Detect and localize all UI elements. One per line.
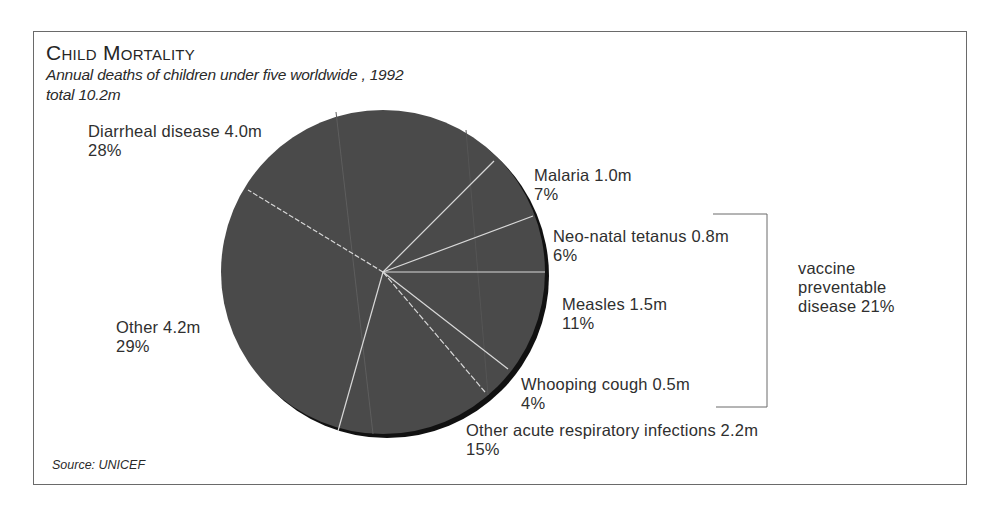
label-malaria-pct: 7%: [534, 185, 632, 204]
label-other: Other 4.2m 29%: [116, 318, 201, 356]
label-malaria-name: Malaria 1.0m: [534, 166, 632, 185]
label-ari-pct: 15%: [466, 440, 758, 459]
label-other-name: Other 4.2m: [116, 318, 201, 337]
label-diarrheal-pct: 28%: [88, 141, 262, 160]
label-neonatal: Neo-natal tetanus 0.8m 6%: [553, 227, 729, 265]
label-measles-name: Measles 1.5m: [562, 295, 667, 314]
label-whooping-pct: 4%: [521, 394, 690, 413]
label-measles: Measles 1.5m 11%: [562, 295, 667, 333]
label-diarrheal: Diarrheal disease 4.0m 28%: [88, 122, 262, 160]
label-whooping-name: Whooping cough 0.5m: [521, 375, 690, 394]
label-ari: Other acute respiratory infections 2.2m …: [466, 421, 758, 459]
label-neonatal-name: Neo-natal tetanus 0.8m: [553, 227, 729, 246]
label-other-pct: 29%: [116, 337, 201, 356]
vaccine-group-line2: preventable: [798, 278, 895, 297]
label-whooping: Whooping cough 0.5m 4%: [521, 375, 690, 413]
label-measles-pct: 11%: [562, 314, 667, 333]
label-malaria: Malaria 1.0m 7%: [534, 166, 632, 204]
label-vaccine-group: vaccine preventable disease 21%: [798, 259, 895, 316]
vaccine-group-line1: vaccine: [798, 259, 895, 278]
label-ari-name: Other acute respiratory infections 2.2m: [466, 421, 758, 440]
source-note: Source: UNICEF: [52, 458, 145, 472]
label-neonatal-pct: 6%: [553, 246, 729, 265]
vaccine-group-line3: disease 21%: [798, 297, 895, 316]
label-diarrheal-name: Diarrheal disease 4.0m: [88, 122, 262, 141]
